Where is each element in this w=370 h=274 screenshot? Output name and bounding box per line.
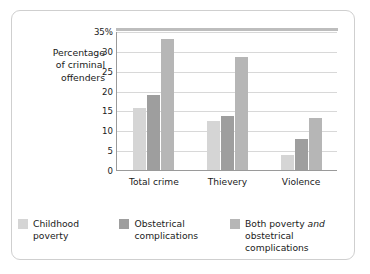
x-axis-category-label: Violence: [264, 177, 338, 187]
bar: [221, 116, 234, 170]
y-axis-tick-label: 30: [73, 47, 113, 57]
bar: [281, 155, 294, 170]
y-axis-tick-labels: 05101520253035%: [68, 32, 113, 171]
bar: [133, 108, 146, 170]
y-axis-tick-label: 35%: [73, 27, 113, 37]
legend-swatch-icon: [119, 219, 129, 229]
x-axis-category-label: Thievery: [191, 177, 265, 187]
bar: [147, 95, 160, 170]
y-axis-tick-label: 20: [73, 87, 113, 97]
legend-item[interactable]: Obstetricalcomplications: [119, 218, 230, 255]
bar-group: [264, 32, 338, 170]
legend-item[interactable]: Childhoodpoverty: [18, 218, 119, 255]
legend-swatch-icon: [230, 219, 240, 229]
legend-label: Childhoodpoverty: [33, 218, 79, 242]
bar: [161, 39, 174, 170]
y-axis-tick-label: 0: [73, 166, 113, 176]
y-axis-tick-label: 25: [73, 67, 113, 77]
legend-item[interactable]: Both poverty andobstetrical complication…: [230, 218, 348, 255]
y-axis-tick-label: 5: [73, 146, 113, 156]
bar: [309, 118, 322, 170]
legend-label: Obstetricalcomplications: [134, 218, 198, 242]
bar: [235, 57, 248, 170]
chart-legend: ChildhoodpovertyObstetricalcomplications…: [18, 218, 348, 255]
bar-group: [191, 32, 265, 170]
bar: [295, 139, 308, 170]
y-axis-tick-label: 15: [73, 106, 113, 116]
x-axis-category-label: Total crime: [117, 177, 191, 187]
legend-swatch-icon: [18, 219, 28, 229]
y-axis-tick-label: 10: [73, 126, 113, 136]
legend-label: Both poverty andobstetrical complication…: [245, 218, 348, 255]
bar-group: [117, 32, 191, 170]
plot-top-rule: [116, 28, 338, 31]
bar: [207, 121, 220, 170]
plot-area: Total crimeThieveryViolence: [116, 32, 337, 171]
